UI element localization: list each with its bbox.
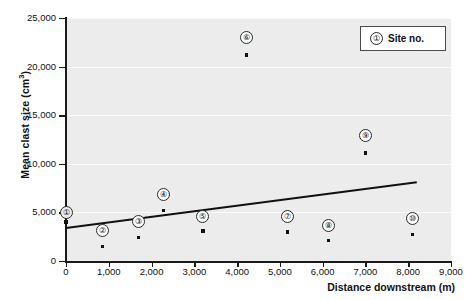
x-axis-tick-label: 8,000 [385, 266, 431, 277]
y-axis-tick-label: 15,000 [8, 109, 56, 120]
y-axis-tick-label: 20,000 [8, 61, 56, 72]
y-axis-tick-label: 25,000 [8, 12, 56, 23]
x-axis-tick-label: 6,000 [300, 266, 346, 277]
legend-site-symbol: ① [370, 32, 383, 45]
y-axis-tick-label: 0 [8, 255, 56, 266]
y-axis-tick-label: 5,000 [8, 206, 56, 217]
site-label-9: ⑨ [359, 129, 372, 142]
data-point [411, 233, 414, 236]
data-point [162, 209, 165, 212]
x-axis-tick-label: 9,000 [428, 266, 468, 277]
data-point [64, 220, 67, 223]
x-axis-line [65, 261, 452, 263]
x-axis-tick-label: 7,000 [342, 266, 388, 277]
gridline [66, 18, 451, 19]
x-axis-tick-label: 2,000 [129, 266, 175, 277]
x-axis-tick-label: 4,000 [214, 266, 260, 277]
data-point [245, 53, 248, 56]
x-axis-tick-label: 1,000 [86, 266, 132, 277]
y-axis-tick-label: 10,000 [8, 158, 56, 169]
y-axis-tick [59, 115, 66, 116]
site-label-1: ① [60, 206, 73, 219]
y-axis-line [65, 17, 67, 262]
x-axis-tick-label: 5,000 [257, 266, 303, 277]
legend: ① Site no. [360, 26, 446, 51]
gridline [66, 212, 451, 213]
legend-label: Site no. [388, 33, 424, 44]
scatter-chart: Mean clast size (cm3) 05,00010,00015,000… [0, 0, 468, 300]
y-axis-tick [59, 67, 66, 68]
site-label-7: ⑦ [281, 210, 294, 223]
y-axis-tick [59, 164, 66, 165]
data-point [327, 239, 330, 242]
gridline [66, 164, 451, 165]
data-point [201, 229, 204, 232]
x-axis-tick-label: 3,000 [171, 266, 217, 277]
gridline [66, 115, 451, 116]
site-label-6: ⑥ [240, 31, 253, 44]
data-point [364, 151, 367, 154]
site-label-3: ③ [132, 215, 145, 228]
site-label-10: ⑩ [406, 212, 419, 225]
data-point [101, 245, 104, 248]
gridline [66, 67, 451, 68]
data-point [286, 230, 289, 233]
y-axis-tick [59, 18, 66, 19]
site-label-8: ⑧ [322, 219, 335, 232]
x-axis-tick-label: 0 [43, 266, 89, 277]
data-point [137, 236, 140, 239]
x-axis-title: Distance downstream (m) [0, 281, 455, 293]
plot-area [66, 18, 451, 261]
y-axis-tick [59, 261, 66, 262]
